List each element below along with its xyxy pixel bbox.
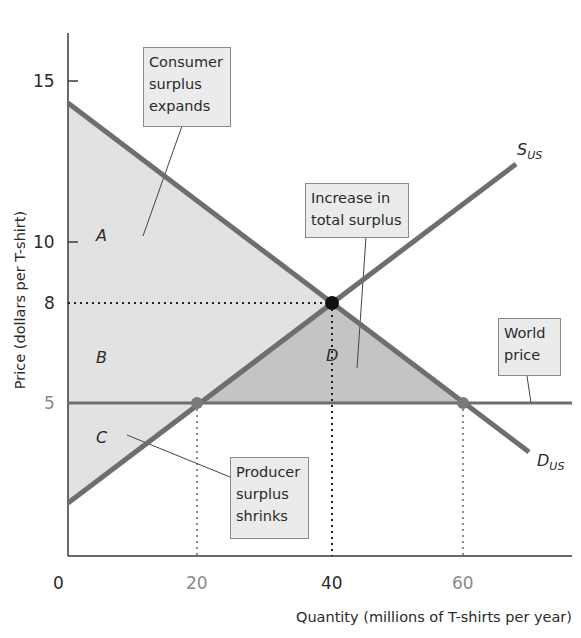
supply-curve-label: SUS [517, 140, 542, 162]
callout-consumer-surplus-expands: Consumer surplus expands [143, 47, 231, 127]
x-tick-label-60: 60 [452, 573, 474, 593]
callout-line: expands [149, 95, 225, 117]
marker-qs-world [191, 397, 203, 409]
callout-increase-total-surplus: Increase in total surplus [305, 183, 409, 238]
y-tick-label-10: 10 [33, 232, 55, 252]
y-tick-label-5: 5 [44, 393, 55, 413]
surplus-chart: 15 10 8 5 0 20 40 60 Price (dollars per … [0, 0, 581, 638]
callout-line: price [504, 344, 555, 366]
callout-line: Increase in [311, 187, 403, 209]
y-axis-title: Price (dollars per T-shirt) [12, 211, 28, 389]
callout-line: surplus [236, 483, 303, 505]
callout-line: Consumer [149, 51, 225, 73]
callout-line: shrinks [236, 505, 303, 527]
leader-world [527, 376, 531, 403]
y-tick-label-8: 8 [44, 293, 55, 313]
callout-producer-surplus-shrinks: Producer surplus shrinks [230, 457, 309, 539]
area-label-d: D [326, 346, 338, 365]
x-tick-label-20: 20 [186, 573, 208, 593]
x-tick-label-40: 40 [321, 573, 343, 593]
callout-world-price: World price [498, 318, 561, 376]
marker-equilibrium [325, 296, 339, 310]
callout-line: World [504, 322, 555, 344]
marker-qd-world [457, 397, 469, 409]
area-label-b: B [96, 348, 107, 367]
callout-line: total surplus [311, 209, 403, 231]
callout-line: surplus [149, 73, 225, 95]
area-label-a: A [95, 226, 107, 245]
x-tick-label-0: 0 [53, 573, 64, 593]
callout-line: Producer [236, 461, 303, 483]
demand-curve-label: DUS [537, 451, 564, 473]
leader-producer [127, 435, 230, 477]
area-label-c: C [96, 428, 108, 447]
y-tick-label-15: 15 [33, 71, 55, 91]
x-axis-title: Quantity (millions of T-shirts per year) [296, 609, 572, 625]
